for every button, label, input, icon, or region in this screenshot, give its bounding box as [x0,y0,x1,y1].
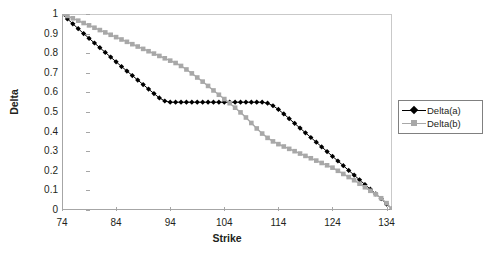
x-tick-mark [116,207,117,211]
x-tick-label: 94 [150,218,190,228]
data-point-square [179,64,184,69]
data-point-square [222,97,227,102]
series-line [62,14,392,209]
y-tick-mark [86,210,90,211]
data-point-square [141,47,146,52]
data-point-square [168,58,173,63]
data-point-square [303,154,308,159]
data-point-square [336,169,341,174]
y-tick-mark [86,92,90,93]
square-marker-icon [411,120,417,126]
data-point-square [254,126,259,131]
y-tick-label: 0.6 [32,87,58,97]
x-tick-label: 124 [312,218,352,228]
x-tick-label: 84 [96,218,136,228]
data-point-square [135,44,140,49]
legend-swatch-delta-a [402,105,426,116]
x-tick-mark [224,207,225,211]
x-tick-mark [62,207,63,211]
y-tick-mark [86,112,90,113]
data-point-square [379,196,384,201]
data-point-square [292,149,297,154]
y-tick-label: 0 [32,205,58,215]
data-point-square [384,201,389,206]
data-point-square [260,131,265,136]
data-point-square [65,14,70,18]
chart-figure: 00.10.20.30.40.50.60.70.80.91 7484941041… [0,0,491,258]
legend-item-delta-b[interactable]: Delta(b) [402,117,479,130]
data-point-diamond [216,100,221,105]
y-tick-mark [86,132,90,133]
data-point-diamond [249,100,254,105]
y-tick-label: 0.3 [32,146,58,156]
data-point-diamond [200,100,205,105]
data-point-diamond [162,98,167,103]
data-point-square [211,88,216,93]
data-point-square [146,49,151,54]
data-point-diamond [233,100,238,105]
data-point-diamond [173,100,178,105]
data-point-diamond [178,100,183,105]
data-point-diamond [254,100,259,105]
chart-legend[interactable]: Delta(a) Delta(b) [398,100,483,134]
data-point-square [71,16,76,21]
x-tick-mark [278,207,279,211]
data-point-square [103,30,108,35]
data-point-square [162,56,167,61]
data-point-diamond [211,100,216,105]
y-axis-title: Delta [8,72,20,132]
data-point-square [314,158,319,163]
data-point-square [81,21,86,26]
y-tick-label: 0.9 [32,29,58,39]
x-tick-mark [332,207,333,211]
data-point-square [352,178,357,183]
data-point-square [98,28,103,33]
legend-label-delta-a: Delta(a) [426,105,461,116]
data-point-square [200,79,205,84]
data-point-diamond [265,101,270,106]
data-point-square [390,207,392,210]
data-point-diamond [168,100,173,105]
data-point-square [87,23,92,28]
legend-swatch-delta-b [402,118,426,129]
y-tick-mark [86,53,90,54]
data-point-square [238,110,243,115]
data-point-square [108,32,113,37]
y-tick-mark [86,151,90,152]
y-tick-label: 0.1 [32,185,58,195]
data-point-square [373,192,378,197]
data-point-square [319,161,324,166]
series-delta-b [62,14,392,210]
y-tick-mark [86,73,90,74]
x-tick-mark [170,207,171,211]
legend-item-delta-a[interactable]: Delta(a) [402,104,479,117]
data-point-square [282,144,287,149]
data-point-square [287,147,292,152]
data-point-square [125,40,130,45]
data-point-square [368,188,373,193]
data-point-diamond [184,100,189,105]
data-point-square [76,18,81,23]
data-point-diamond [205,100,210,105]
data-point-square [114,35,119,40]
data-point-square [152,51,157,56]
x-tick-label: 134 [367,218,407,228]
data-point-square [62,14,64,16]
data-point-square [271,139,276,144]
y-tick-label: 0.2 [32,166,58,176]
data-point-square [298,151,303,156]
data-point-square [195,75,200,80]
data-point-square [325,163,330,168]
data-point-diamond [189,100,194,105]
y-tick-mark [86,14,90,15]
data-point-diamond [195,100,200,105]
data-point-square [233,105,238,110]
data-point-square [244,115,249,120]
data-point-square [173,61,178,66]
y-tick-label: 1 [32,9,58,19]
data-point-square [276,142,281,147]
data-point-diamond [243,100,248,105]
y-tick-mark [86,34,90,35]
data-point-diamond [260,100,265,105]
series-delta-a [62,14,392,210]
